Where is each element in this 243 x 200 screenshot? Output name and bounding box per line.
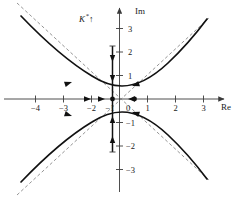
arrow-upper-branch-left (64, 79, 73, 87)
gain-label-arrow: ↑ (89, 14, 94, 24)
pole-marker-origin (110, 97, 115, 102)
imag-tick-label-2: 2 (128, 47, 132, 57)
arrow-vertical-down-inner (110, 116, 115, 123)
pole-marker-real (132, 97, 137, 102)
arrow-vertical-up-inner (110, 75, 115, 82)
arrow-vertical-up-outer (110, 55, 115, 62)
imag-tick-label-neg2: −2 (126, 141, 135, 151)
real-axis-label: Re (221, 102, 231, 112)
imag-tick-label-3: 3 (128, 24, 132, 34)
arrow-real-axis-right-a (98, 96, 105, 101)
imaginary-axis-label: Im (135, 6, 145, 16)
real-tick-label-1: 1 (145, 103, 149, 113)
real-tick-label-neg2: −2 (87, 103, 96, 113)
arrow-real-axis-right-b (84, 96, 91, 101)
plot-canvas: −4 −3 −2 −1 1 2 3 0 3 2 1 −1 −2 −3 Im Re… (0, 0, 243, 200)
imag-tick-label-neg1: −1 (126, 118, 135, 128)
root-locus-figure: −4 −3 −2 −1 1 2 3 0 3 2 1 −1 −2 −3 Im Re… (0, 0, 243, 200)
real-tick-label-neg1: −1 (105, 103, 114, 113)
imag-tick-label-1: 1 (128, 71, 132, 81)
real-tick-label-neg4: −4 (31, 103, 41, 113)
origin-label: 0 (126, 103, 130, 113)
real-tick-label-2: 2 (173, 103, 177, 113)
real-tick-label-neg3: −3 (59, 103, 68, 113)
arrow-vertical-down-outer (110, 136, 115, 143)
real-tick-label-3: 3 (201, 103, 205, 113)
gain-direction-annotation: K * ↑ (78, 12, 94, 24)
imag-tick-label-neg3: −3 (126, 165, 135, 175)
